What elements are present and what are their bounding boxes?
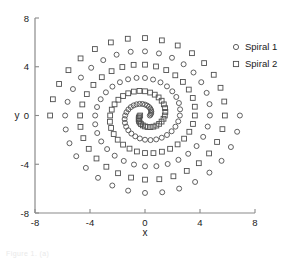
data-point-square [135, 149, 140, 154]
data-point-circle [176, 157, 181, 162]
data-point-circle [177, 186, 182, 191]
data-point-circle [63, 113, 68, 118]
data-point-square [207, 151, 212, 156]
data-point-square [143, 36, 148, 41]
data-point-square [220, 127, 225, 132]
data-point-square [111, 132, 116, 137]
data-point-circle [207, 170, 212, 175]
data-point-square [157, 177, 162, 182]
data-point-square [80, 102, 85, 107]
data-point-square [148, 90, 153, 95]
data-point-square [109, 107, 114, 112]
data-point-circle [148, 106, 153, 111]
data-point-square [190, 96, 195, 101]
data-point-circle [194, 144, 199, 149]
data-point-circle [158, 80, 163, 85]
data-point-circle [112, 153, 117, 158]
data-point-square [184, 169, 189, 174]
data-point-square [109, 69, 114, 74]
data-point-square [131, 62, 136, 67]
data-point-square [175, 43, 180, 48]
data-point-square [57, 82, 62, 87]
data-point-circle [137, 136, 142, 141]
data-point-circle [143, 190, 148, 195]
data-point-circle [110, 84, 115, 89]
data-point-circle [178, 107, 183, 112]
x-tick-label: -4 [86, 217, 94, 228]
data-point-circle [74, 154, 79, 159]
data-point-square [173, 73, 178, 78]
data-point-circle [143, 75, 148, 80]
data-point-square [66, 68, 71, 73]
data-point-circle [205, 124, 210, 129]
data-point-circle [131, 162, 136, 167]
data-point-square [192, 113, 197, 118]
legend-label: Spiral 2 [245, 58, 277, 69]
data-point-square [116, 171, 121, 176]
data-point-circle [237, 113, 242, 118]
data-point-square [159, 38, 164, 43]
data-point-circle [176, 119, 181, 124]
data-point-square [108, 40, 113, 45]
data-point-circle [207, 113, 212, 118]
data-point-square [120, 65, 125, 70]
data-point-circle [117, 80, 122, 85]
data-point-circle [235, 129, 240, 134]
data-point-square [78, 56, 83, 61]
data-point-circle [191, 70, 196, 75]
spiral-scatter-plot: -8-4048 -8-4048 x y Spiral 1Spiral 2 [0, 0, 290, 259]
data-point-circle [159, 135, 164, 140]
y-tick-label: -4 [21, 159, 29, 170]
x-axis-title: x [143, 227, 148, 238]
y-axis-title: y [15, 110, 20, 121]
legend-label: Spiral 1 [245, 41, 277, 52]
data-point-circle [98, 97, 103, 102]
data-point-square [222, 99, 227, 104]
data-point-square [143, 89, 148, 94]
data-point-circle [164, 84, 169, 89]
data-point-square [164, 68, 169, 73]
data-point-circle [128, 49, 133, 54]
data-point-circle [154, 164, 159, 169]
data-point-square [104, 164, 109, 169]
data-point-circle [204, 90, 209, 95]
data-point-circle [228, 145, 233, 150]
data-point-square [137, 89, 142, 94]
data-point-circle [156, 51, 161, 56]
data-point-circle [101, 58, 106, 63]
data-point-square [218, 85, 223, 90]
data-point-square [196, 161, 201, 166]
data-point-circle [93, 113, 98, 118]
data-point-circle [95, 105, 100, 110]
data-point-square [112, 102, 117, 107]
data-point-circle [154, 137, 159, 142]
data-point-square [78, 124, 83, 129]
data-point-square [108, 119, 113, 124]
data-point-circle [93, 122, 98, 127]
data-point-square [211, 72, 216, 77]
figure-container: -8-4048 -8-4048 x y Spiral 1Spiral 2 Fig… [0, 0, 290, 259]
data-point-circle [174, 94, 179, 99]
data-point-circle [96, 175, 101, 180]
data-point-square [116, 97, 121, 102]
series-spiral-2 [48, 36, 228, 182]
data-point-square [168, 146, 173, 151]
data-point-circle [99, 139, 104, 144]
data-point-circle [134, 102, 139, 107]
data-point-square [143, 177, 148, 182]
data-point-square [190, 51, 195, 56]
data-point-circle [126, 77, 131, 82]
data-point-circle [89, 65, 94, 70]
data-point-square [50, 97, 55, 102]
data-point-circle [177, 113, 182, 118]
y-tick-label: -8 [21, 208, 29, 219]
data-point-square [191, 122, 196, 127]
data-point-circle [83, 165, 88, 170]
data-point-square [186, 87, 191, 92]
data-point-circle [170, 89, 175, 94]
y-tick-label: 8 [24, 13, 29, 24]
data-point-square [99, 75, 104, 80]
data-point-square [109, 126, 114, 131]
data-point-square [126, 91, 131, 96]
data-point-square [48, 113, 53, 118]
